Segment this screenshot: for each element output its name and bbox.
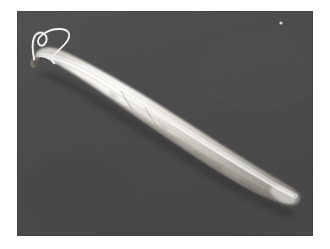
- film-grain: [17, 11, 313, 236]
- micrograph-frame: [17, 11, 313, 236]
- electron-micrograph-image: [17, 11, 313, 236]
- figure-root: [0, 0, 330, 249]
